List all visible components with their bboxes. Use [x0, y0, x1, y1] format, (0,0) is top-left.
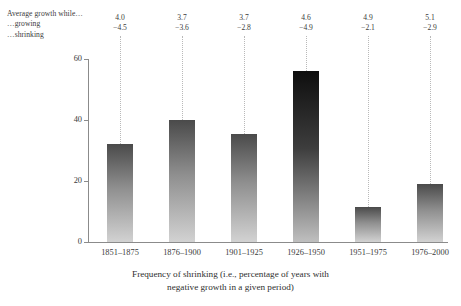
- y-axis-tick: [84, 59, 89, 60]
- growing-value: 5.1: [400, 13, 460, 23]
- shrinking-value: −4.9: [276, 23, 336, 33]
- x-axis-label-1976–2000: 1976–2000: [390, 247, 461, 258]
- y-axis-tick-label: 60: [56, 55, 82, 63]
- chart-caption: Frequency of shrinking (i.e., percentage…: [0, 268, 461, 293]
- growing-value: 4.9: [338, 13, 398, 23]
- bar-chart-figure: Average growth while… …growing …shrinkin…: [0, 0, 461, 306]
- y-axis-tick: [84, 120, 89, 121]
- bar-1901–1925: [231, 134, 257, 242]
- leader-line: [120, 36, 121, 144]
- shrinking-value: −2.9: [400, 23, 460, 33]
- caption-line-1: Frequency of shrinking (i.e., percentage…: [0, 268, 461, 281]
- leader-line: [430, 36, 431, 184]
- x-axis-line: [88, 242, 448, 243]
- bar-1926–1950: [293, 71, 319, 242]
- bar-1976–2000: [417, 184, 443, 242]
- y-axis-tick: [84, 181, 89, 182]
- leader-line: [182, 36, 183, 120]
- bar-1851–1875: [107, 144, 133, 242]
- y-axis-line: [88, 60, 89, 243]
- growing-value: 3.7: [152, 13, 212, 23]
- leader-line: [368, 36, 369, 207]
- y-axis-tick-label: 20: [56, 177, 82, 185]
- shrinking-value: −2.1: [338, 23, 398, 33]
- growing-value: 3.7: [214, 13, 274, 23]
- y-axis-tick: [84, 242, 89, 243]
- caption-line-2: negative growth in a given period): [0, 281, 461, 294]
- shrinking-value: −2.8: [214, 23, 274, 33]
- leader-line: [244, 36, 245, 134]
- y-axis-tick-label: 40: [56, 116, 82, 124]
- bar-1876–1900: [169, 120, 195, 242]
- growing-value: 4.0: [90, 13, 150, 23]
- plot-area: 02040601851–18751876–19001901–19251926–1…: [0, 0, 461, 306]
- y-axis-tick-label: 0: [56, 238, 82, 246]
- bar-1951–1975: [355, 207, 381, 242]
- growing-value: 4.6: [276, 13, 336, 23]
- shrinking-value: −3.6: [152, 23, 212, 33]
- shrinking-value: −4.5: [90, 23, 150, 33]
- leader-line: [306, 36, 307, 71]
